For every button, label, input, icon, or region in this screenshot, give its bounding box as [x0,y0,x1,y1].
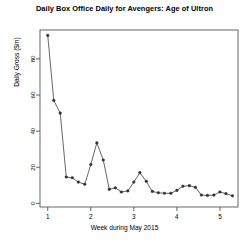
y-axis-tick-label: 80 [30,55,37,62]
data-series-layer [46,34,233,197]
data-point [157,191,160,194]
data-point [77,181,80,184]
data-point [176,189,179,192]
x-axis-tick-label: 4 [175,213,179,220]
data-point [213,194,216,197]
data-point [225,192,228,195]
data-point [139,171,142,174]
data-point [206,194,209,197]
data-point [46,34,49,37]
x-axis-tick-label: 3 [132,213,136,220]
chart-figure: Daily Box Office Daily for Avengers: Age… [0,0,249,243]
x-axis-tick-label: 1 [46,213,50,220]
plot-canvas: 02040608012345 [0,0,249,243]
data-point [102,159,105,162]
data-point [71,176,74,179]
data-point [59,112,62,115]
data-point [188,184,191,187]
data-point [95,142,98,145]
data-point [182,185,185,188]
x-axis-tick-label: 2 [89,213,93,220]
data-point [83,183,86,186]
data-point [120,191,123,194]
y-axis-tick-label: 40 [30,127,37,134]
y-axis-tick-label: 0 [30,201,37,205]
data-point [170,192,173,195]
data-point [145,180,148,183]
data-point [132,181,135,184]
y-axis-tick-label: 20 [30,163,37,170]
data-point [163,192,166,195]
plot-frame [40,30,238,207]
data-point [151,190,154,193]
x-axis-tick-label: 5 [218,213,222,220]
y-axis-tick-label: 60 [30,91,37,98]
data-point [65,176,68,179]
data-point [108,188,111,191]
data-point [200,194,203,197]
axes-layer: 02040608012345 [30,30,239,220]
data-point [114,187,117,190]
data-point [89,163,92,166]
data-point [194,186,197,189]
data-point [126,190,129,193]
data-point [231,194,234,197]
data-point [52,99,55,102]
data-point [219,191,222,194]
